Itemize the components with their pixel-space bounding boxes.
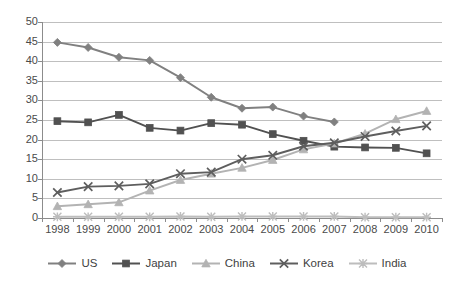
x-tick-label-2003: 2003 [199,223,223,236]
line-chart: 50454035302520151050 1998199920002001200… [0,0,454,284]
diamond-icon [47,257,77,270]
x-tick-mark [257,218,258,222]
triangle-icon [191,257,221,270]
asterisk-icon [348,257,378,270]
x-tick-mark [288,218,289,222]
x-tick-mark [319,218,320,222]
square-icon [111,257,141,270]
x-tick-label-2000: 2000 [107,223,131,236]
x-tick-label-2005: 2005 [261,223,285,236]
legend-label: China [224,257,255,270]
x-tick-mark [134,218,135,222]
series-india [53,212,431,222]
x-icon [269,257,299,270]
legend-item-korea[interactable]: Korea [269,257,334,270]
legend-item-china[interactable]: China [191,257,255,270]
x-tick-mark [442,218,443,222]
x-tick-mark [350,218,351,222]
x-tick-label-1998: 1998 [45,223,69,236]
x-tick-label-2004: 2004 [230,223,254,236]
x-tick-label-2006: 2006 [291,223,315,236]
x-tick-label-1999: 1999 [76,223,100,236]
legend-label: India [381,257,407,270]
x-tick-label-2010: 2010 [414,223,438,236]
series-layer [42,22,442,218]
legend-label: Korea [302,257,334,270]
x-tick-mark [42,218,43,222]
x-tick-label-2009: 2009 [384,223,408,236]
x-tick-mark [104,218,105,222]
x-tick-mark [380,218,381,222]
x-tick-label-2002: 2002 [168,223,192,236]
x-tick-label-2001: 2001 [137,223,161,236]
x-tick-mark [73,218,74,222]
x-tick-mark [411,218,412,222]
legend-item-us[interactable]: US [47,257,97,270]
legend-label: Japan [144,257,176,270]
legend-label: US [80,257,97,270]
x-tick-label-2007: 2007 [322,223,346,236]
chart-legend: USJapanChinaKoreaIndia [0,252,454,274]
y-axis-tick-marks [0,22,44,218]
series-us [53,38,338,126]
legend-item-japan[interactable]: Japan [111,257,176,270]
x-tick-mark [165,218,166,222]
legend-item-india[interactable]: India [348,257,407,270]
x-axis-tick-labels: 1998199920002001200220032004200520062007… [42,223,442,243]
series-korea [53,122,431,197]
x-tick-label-2008: 2008 [353,223,377,236]
x-tick-mark [227,218,228,222]
x-tick-mark [196,218,197,222]
